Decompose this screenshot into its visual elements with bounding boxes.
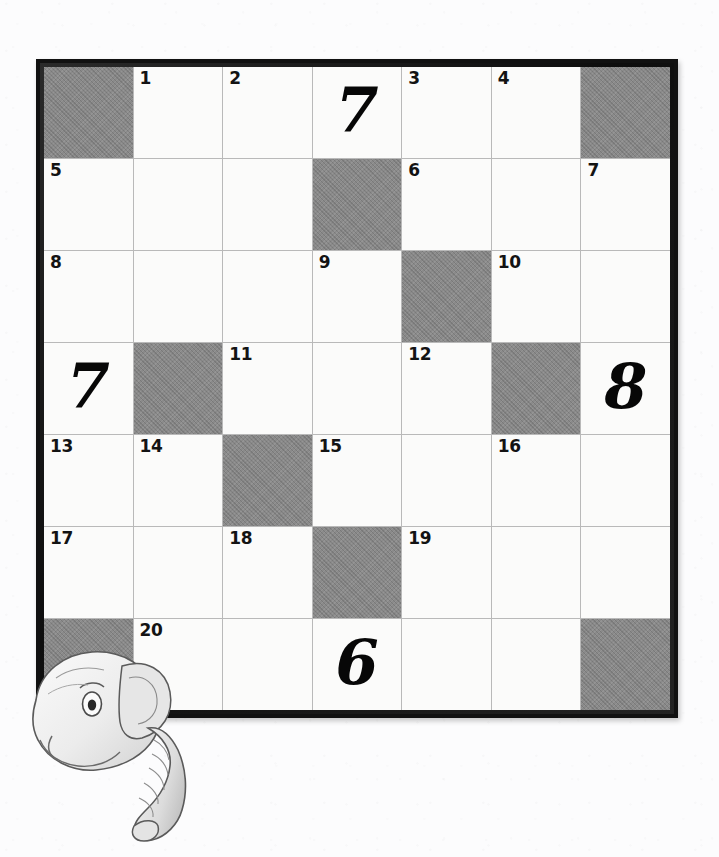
grid-cell[interactable]: 17 xyxy=(44,527,133,618)
trunk-wrinkle-4 xyxy=(144,783,158,804)
grid-cell[interactable] xyxy=(581,527,670,618)
grid-cell[interactable]: 7 xyxy=(44,343,133,434)
grid-cell[interactable]: 14 xyxy=(134,435,223,526)
clue-number: 6 xyxy=(408,161,420,181)
grid-cell-blocked xyxy=(581,67,670,158)
grid-cell[interactable]: 4 xyxy=(492,67,581,158)
elephant-tusk xyxy=(49,736,58,760)
grid-cell[interactable] xyxy=(134,251,223,342)
grid-cell[interactable]: 8 xyxy=(581,343,670,434)
elephant-trunk xyxy=(134,728,185,841)
answer-digit: 7 xyxy=(313,67,402,158)
grid-cell[interactable] xyxy=(402,435,491,526)
grid-cell-blocked xyxy=(492,343,581,434)
elephant-jaw-line xyxy=(40,740,120,766)
grid-cell-blocked xyxy=(402,251,491,342)
grid-cell[interactable] xyxy=(492,527,581,618)
elephant-trunk-tip xyxy=(132,821,158,841)
grid-cell[interactable]: 2 xyxy=(223,67,312,158)
grid-cell[interactable]: 18 xyxy=(223,527,312,618)
grid-cell-blocked xyxy=(44,619,133,710)
answer-digit: 8 xyxy=(581,343,670,434)
grid-cell[interactable]: 5 xyxy=(44,159,133,250)
grid-cell[interactable] xyxy=(581,435,670,526)
answer-digit: 6 xyxy=(313,619,402,710)
grid-cell[interactable]: 9 xyxy=(313,251,402,342)
trunk-wrinkle-2 xyxy=(152,754,168,775)
grid-cell[interactable] xyxy=(581,251,670,342)
clue-number: 15 xyxy=(319,437,342,457)
crossword-grid[interactable]: 12734567891071112813141516171819206 xyxy=(44,67,670,710)
clue-number: 11 xyxy=(229,345,252,365)
grid-cell[interactable]: 1 xyxy=(134,67,223,158)
answer-digit: 7 xyxy=(44,343,133,434)
clue-number: 14 xyxy=(140,437,163,457)
clue-number: 5 xyxy=(50,161,62,181)
clue-number: 1 xyxy=(140,69,152,89)
grid-cell[interactable]: 6 xyxy=(402,159,491,250)
grid-cell[interactable]: 13 xyxy=(44,435,133,526)
clue-number: 10 xyxy=(498,253,521,273)
grid-cell[interactable] xyxy=(313,343,402,434)
grid-cell[interactable]: 12 xyxy=(402,343,491,434)
grid-cell[interactable]: 8 xyxy=(44,251,133,342)
grid-cell[interactable]: 7 xyxy=(313,67,402,158)
grid-cell-blocked xyxy=(134,343,223,434)
clue-number: 13 xyxy=(50,437,73,457)
grid-cell[interactable]: 7 xyxy=(581,159,670,250)
grid-cell[interactable] xyxy=(492,619,581,710)
grid-cell[interactable] xyxy=(134,527,223,618)
grid-cell[interactable]: 3 xyxy=(402,67,491,158)
crossword-puzzle: 12734567891071112813141516171819206 xyxy=(36,59,678,718)
grid-cell[interactable] xyxy=(223,619,312,710)
clue-number: 12 xyxy=(408,345,431,365)
clue-number: 7 xyxy=(587,161,599,181)
grid-cell[interactable] xyxy=(223,251,312,342)
grid-cell-blocked xyxy=(313,159,402,250)
clue-number: 3 xyxy=(408,69,420,89)
grid-cell[interactable] xyxy=(492,159,581,250)
grid-cell[interactable]: 11 xyxy=(223,343,312,434)
grid-cell-blocked xyxy=(581,619,670,710)
grid-cell[interactable]: 20 xyxy=(134,619,223,710)
trunk-wrinkle-1 xyxy=(154,740,169,760)
grid-cell[interactable]: 15 xyxy=(313,435,402,526)
grid-cell[interactable]: 16 xyxy=(492,435,581,526)
clue-number: 20 xyxy=(140,621,163,641)
grid-cell-blocked xyxy=(313,527,402,618)
grid-cell-blocked xyxy=(223,435,312,526)
clue-number: 16 xyxy=(498,437,521,457)
clue-number: 8 xyxy=(50,253,62,273)
grid-cell[interactable]: 6 xyxy=(313,619,402,710)
clue-number: 4 xyxy=(498,69,510,89)
grid-cell-blocked xyxy=(44,67,133,158)
clue-number: 17 xyxy=(50,529,73,549)
clue-number: 2 xyxy=(229,69,241,89)
grid-cell[interactable] xyxy=(134,159,223,250)
trunk-wrinkle-5 xyxy=(139,798,153,817)
grid-cell[interactable] xyxy=(223,159,312,250)
grid-cell[interactable]: 10 xyxy=(492,251,581,342)
clue-number: 19 xyxy=(408,529,431,549)
clue-number: 9 xyxy=(319,253,331,273)
trunk-wrinkle-3 xyxy=(149,768,164,790)
grid-cell[interactable]: 19 xyxy=(402,527,491,618)
grid-cell[interactable] xyxy=(402,619,491,710)
clue-number: 18 xyxy=(229,529,252,549)
